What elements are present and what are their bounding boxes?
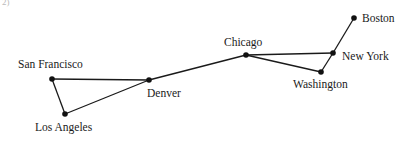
node-san-francisco (49, 76, 55, 82)
labels-group: San FranciscoLos AngelesDenverChicagoNew… (18, 12, 395, 134)
edge-san-francisco-denver (52, 79, 149, 80)
edge-chicago-new-york (246, 53, 333, 55)
label-denver: Denver (147, 87, 181, 99)
node-boston (351, 15, 357, 21)
label-chicago: Chicago (224, 36, 263, 49)
edge-washington-new-york (321, 53, 333, 72)
node-denver (146, 77, 152, 83)
edge-denver-chicago (149, 55, 246, 80)
edges-group (52, 18, 354, 114)
label-los-angeles: Los Angeles (35, 121, 93, 134)
edge-los-angeles-denver (65, 80, 149, 114)
node-washington (318, 69, 324, 75)
label-washington: Washington (293, 78, 348, 91)
node-los-angeles (62, 111, 68, 117)
node-chicago (243, 52, 249, 58)
edge-new-york-boston (333, 18, 354, 53)
edge-chicago-washington (246, 55, 321, 72)
edge-san-francisco-los-angeles (52, 79, 65, 114)
node-new-york (330, 50, 336, 56)
label-boston: Boston (362, 12, 395, 24)
city-graph-diagram: 2) San FranciscoLos AngelesDenverChicago… (0, 0, 406, 143)
label-new-york: New York (342, 50, 389, 62)
label-san-francisco: San Francisco (18, 58, 83, 70)
figure-label: 2) (2, 0, 10, 7)
